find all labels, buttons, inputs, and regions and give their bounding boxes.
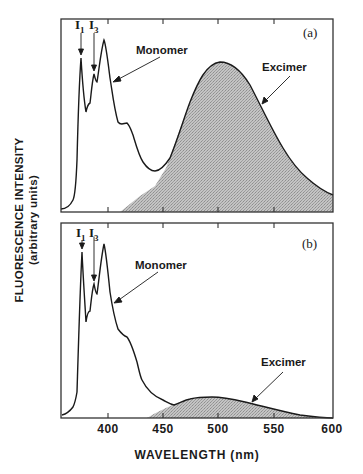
x-tick-450: 450 <box>152 422 174 436</box>
panel-b-spectrum-line <box>62 244 333 418</box>
x-axis-label: WAVELENGTH (nm) <box>61 448 333 462</box>
panel-a-excimer-label: Excimer <box>262 61 307 73</box>
panel-a-i1-label: I1 <box>75 17 85 35</box>
panel-a <box>61 19 333 212</box>
x-tick-500: 500 <box>207 422 229 436</box>
y-axis-label-line1: FLUORESCENCE INTENSITY <box>12 137 26 302</box>
panel-a-i3-label: I3 <box>89 17 99 35</box>
panel-b-ticks <box>108 223 274 418</box>
x-tick-400: 400 <box>97 422 119 436</box>
panel-b-i1-label: I1 <box>76 225 86 243</box>
y-axis-label: FLUORESCENCE INTENSITY (arbitrary units) <box>6 120 46 320</box>
x-tick-600: 600 <box>321 422 343 436</box>
panel-b-excimer-area <box>147 397 333 418</box>
panel-b-monomer-label: Monomer <box>135 259 187 271</box>
panel-b-excimer-label: Excimer <box>261 356 306 368</box>
panel-a-monomer-label: Monomer <box>136 44 188 56</box>
y-axis-label-line2: (arbitrary units) <box>26 137 40 302</box>
panel-b-tag: (b) <box>302 236 317 252</box>
panel-b-i3-label: I3 <box>89 225 99 243</box>
panel-b <box>61 223 333 418</box>
x-tick-550: 550 <box>263 422 285 436</box>
panel-a-tag: (a) <box>303 25 317 41</box>
panel-a-excimer-area <box>120 62 333 212</box>
